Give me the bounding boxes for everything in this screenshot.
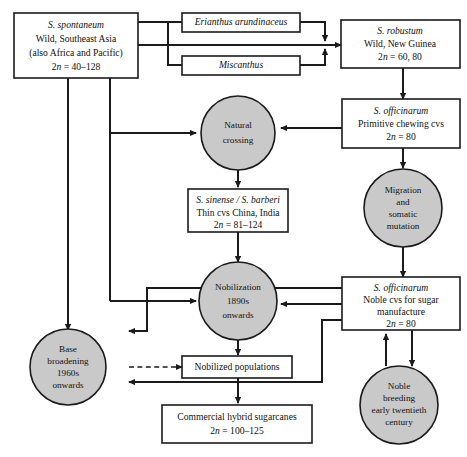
edge-miscanthus-to-robustum	[300, 49, 325, 65]
node-line-2: 1890s	[227, 296, 249, 306]
node-line-3: early twentieth	[372, 405, 427, 415]
node-line-3: (also Africa and Pacific)	[29, 47, 123, 59]
node-line-2: breeding	[383, 393, 416, 403]
node-line-3: 2n = 81–124	[214, 219, 263, 230]
node-line-2: crossing	[223, 135, 254, 145]
node-line-1: Erianthus arundinaceus	[194, 16, 288, 27]
node-line-1: S. officinarum	[374, 105, 428, 116]
node-base-broadening[interactable]: Base broadening 1960s onwards	[30, 329, 106, 405]
node-line-1: S. robustum	[377, 25, 423, 36]
node-s-officinarum-primitive[interactable]: S. officinarum Primitive chewing cvs 2n …	[342, 99, 460, 148]
node-s-spontaneum[interactable]: S. spontaneum Wild, Southeast Asia (also…	[14, 13, 138, 78]
node-s-officinarum-noble[interactable]: S. officinarum Noble cvs for sugar manuf…	[342, 277, 460, 330]
node-line-2: Wild, Southeast Asia	[36, 33, 117, 44]
node-circle	[30, 329, 106, 405]
node-line-3: 1960s	[57, 368, 79, 378]
node-noble-breeding[interactable]: Noble breeding early twentieth century	[360, 366, 438, 444]
node-line-2: 2n = 100–125	[210, 425, 264, 436]
node-commercial-hybrid-sugarcanes[interactable]: Commercial hybrid sugarcanes 2n = 100–12…	[162, 405, 312, 443]
node-line-1: Nobilized populations	[195, 361, 280, 372]
node-line-2: Noble cvs for sugar	[363, 294, 439, 305]
node-migration-somatic-mutation[interactable]: Migration and somatic mutation	[364, 169, 442, 247]
node-line-1: Noble	[388, 381, 410, 391]
node-s-sinense-s-barberi[interactable]: S. sinense / S. barberi Thin cvs China, …	[188, 189, 288, 232]
node-line-1: S. spontaneum	[48, 19, 104, 30]
node-line-4: onwards	[52, 380, 84, 390]
node-nobilization[interactable]: Nobilization 1890s onwards	[199, 262, 277, 340]
node-line-3: 2n = 80	[386, 131, 416, 142]
node-line-1: Commercial hybrid sugarcanes	[177, 411, 297, 422]
edge-erianthus-to-robustum	[300, 22, 325, 41]
node-line-4: mutation	[387, 221, 420, 231]
edge-spontaneum-to-erianthus	[138, 22, 182, 65]
node-line-2: Thin cvs China, India	[196, 207, 280, 218]
node-line-1: S. officinarum	[374, 282, 428, 293]
node-line-4: 2n = 80	[386, 318, 416, 329]
node-line-2: and	[396, 197, 410, 207]
node-line-1: Nobilization	[215, 282, 261, 292]
node-miscanthus[interactable]: Miscanthus	[182, 56, 300, 75]
node-circle	[364, 169, 442, 247]
node-natural-crossing[interactable]: Natural crossing	[201, 96, 275, 170]
node-erianthus-arundinaceus[interactable]: Erianthus arundinaceus	[182, 13, 300, 32]
node-line-3: manufacture	[377, 306, 425, 317]
node-line-3: 2n = 60, 80	[378, 51, 422, 62]
node-line-2: broadening	[47, 356, 89, 366]
node-line-3: onwards	[222, 310, 254, 320]
node-line-1: Natural	[224, 120, 252, 130]
node-circle	[201, 96, 275, 170]
node-line-4: 2n = 40–128	[52, 61, 101, 72]
node-s-robustum[interactable]: S. robustum Wild, New Guinea 2n = 60, 80	[341, 20, 460, 68]
node-line-2: Wild, New Guinea	[364, 38, 437, 49]
node-line-1: Miscanthus	[218, 59, 264, 70]
diagram-canvas: S. spontaneum Wild, Southeast Asia (also…	[0, 0, 467, 457]
node-line-4: century	[385, 417, 413, 427]
sugarcane-breeding-flowchart: S. spontaneum Wild, Southeast Asia (also…	[0, 0, 467, 457]
node-line-1: S. sinense / S. barberi	[196, 194, 280, 205]
node-line-1: Base	[59, 344, 77, 354]
node-line-1: Migration	[385, 185, 422, 195]
node-line-3: somatic	[389, 209, 418, 219]
node-line-2: Primitive chewing cvs	[358, 118, 444, 129]
node-nobilized-populations[interactable]: Nobilized populations	[182, 356, 292, 378]
